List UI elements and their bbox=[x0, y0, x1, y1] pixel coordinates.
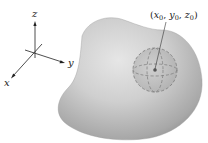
x-axis bbox=[13, 44, 42, 76]
solid-region bbox=[58, 18, 202, 140]
x-axis-label: x bbox=[4, 77, 10, 88]
y-axis bbox=[25, 50, 62, 62]
coordinate-axes bbox=[11, 21, 65, 79]
y-axis-label: y bbox=[67, 57, 74, 68]
ball-around-point bbox=[133, 48, 177, 92]
z-axis-arrowhead bbox=[33, 21, 36, 26]
solid-region-diagram: (x0, y0, z0) z y x bbox=[0, 0, 208, 143]
point-label: (x0, y0, z0) bbox=[150, 9, 198, 22]
z-axis-label: z bbox=[31, 8, 38, 19]
y-axis-arrowhead bbox=[60, 60, 66, 63]
